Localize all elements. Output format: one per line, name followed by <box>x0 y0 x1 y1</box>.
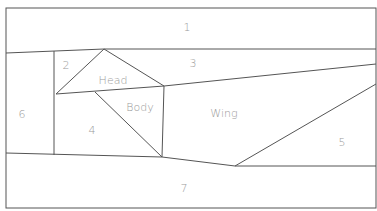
region-label-6: 6 <box>19 108 26 121</box>
edge-region7-top <box>6 153 376 166</box>
outer-border <box>6 8 376 208</box>
region-label-head: Head <box>99 74 128 87</box>
edge-body-right <box>162 86 164 157</box>
region-label-5: 5 <box>339 136 346 149</box>
region-label-body: Body <box>126 101 153 114</box>
region-label-7: 7 <box>181 182 188 195</box>
head-triangle <box>56 49 164 94</box>
edge-region1-bottom <box>6 49 376 53</box>
region-label-wing: Wing <box>210 107 237 120</box>
region-label-2: 2 <box>63 59 70 72</box>
region-label-1: 1 <box>184 21 191 34</box>
region-label-4: 4 <box>89 124 96 137</box>
region-label-3: 3 <box>190 57 197 70</box>
edge-region5-top <box>235 84 376 166</box>
